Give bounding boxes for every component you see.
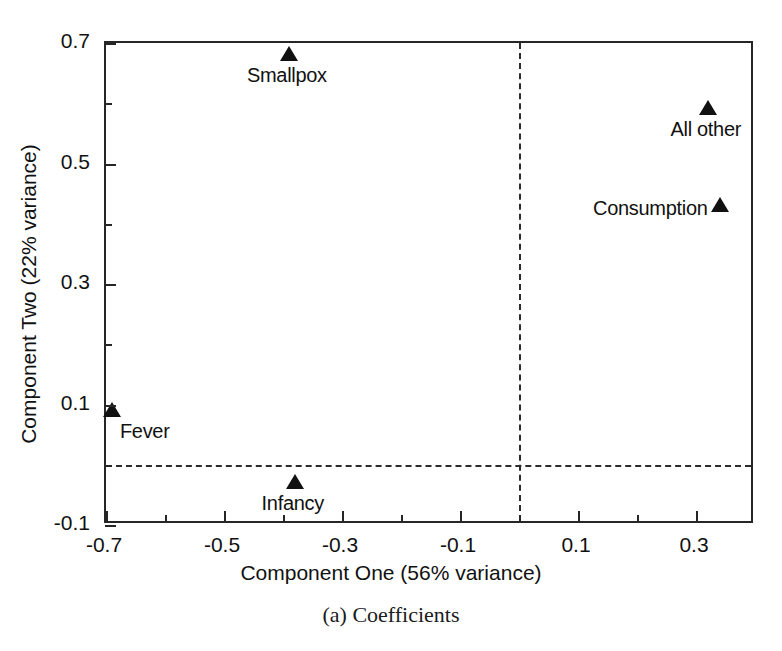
reference-line-vertical	[519, 43, 521, 521]
x-axis-tick	[401, 515, 403, 522]
x-axis-tick	[637, 515, 639, 522]
y-tick-label: 0.7	[0, 29, 90, 53]
x-tick-label: 0.1	[561, 533, 590, 557]
x-axis-tick	[283, 515, 285, 522]
data-point-marker	[280, 46, 298, 61]
y-tick-label: 0.1	[0, 391, 90, 415]
figure-coefficients-scatter: SmallpoxAll otherConsumptionFeverInfancy…	[0, 0, 782, 651]
data-point-label: Consumption	[593, 196, 708, 219]
y-axis-tick	[105, 103, 112, 105]
data-point-label: Smallpox	[247, 64, 327, 87]
data-point-label: Fever	[120, 419, 170, 442]
y-tick-label: -0.1	[0, 511, 90, 535]
y-axis-tick	[105, 525, 116, 527]
x-axis-tick	[578, 511, 580, 522]
x-axis-tick	[224, 511, 226, 522]
y-axis-tick	[105, 344, 112, 346]
y-axis-tick	[105, 224, 112, 226]
plot-area: SmallpoxAll otherConsumptionFeverInfancy	[104, 41, 753, 523]
y-tick-label: 0.3	[0, 270, 90, 294]
y-axis-tick	[105, 465, 112, 467]
x-tick-label: -0.7	[86, 533, 122, 557]
y-tick-label: 0.5	[0, 150, 90, 174]
reference-line-horizontal	[106, 465, 751, 467]
data-point-marker	[711, 197, 729, 212]
x-axis-title: Component One (56% variance)	[0, 561, 782, 585]
x-axis-tick	[342, 511, 344, 522]
x-axis-tick	[106, 511, 108, 522]
y-axis-title: Component Two (22% variance)	[17, 59, 41, 529]
data-point-label: Infancy	[262, 491, 324, 514]
data-point-label: All other	[670, 118, 741, 141]
y-axis-tick	[105, 164, 116, 166]
x-axis-tick	[519, 515, 521, 522]
x-tick-label: -0.1	[440, 533, 476, 557]
x-axis-tick	[696, 511, 698, 522]
x-tick-label: 0.3	[679, 533, 708, 557]
x-tick-label: -0.3	[322, 533, 358, 557]
y-axis-tick	[105, 43, 116, 45]
x-axis-tick	[460, 511, 462, 522]
data-point-marker	[699, 100, 717, 115]
figure-caption: (a) Coefficients	[0, 602, 782, 628]
y-axis-tick	[105, 284, 116, 286]
x-tick-label: -0.5	[204, 533, 240, 557]
data-point-marker	[286, 474, 304, 489]
x-axis-tick	[165, 515, 167, 522]
y-axis-tick	[105, 405, 116, 407]
